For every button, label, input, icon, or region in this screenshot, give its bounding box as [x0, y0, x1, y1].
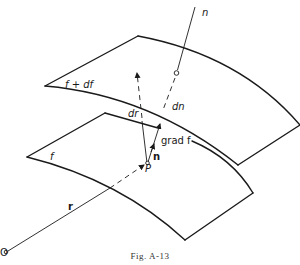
normal-line: [163, 7, 195, 110]
label-unit-normal: n: [153, 151, 160, 162]
figure-a-13: n f + df dn dr grad f n P f r O Fig. A-1…: [0, 0, 300, 265]
normal-point-marker: [174, 71, 179, 76]
position-vector-r: [4, 165, 144, 254]
label-origin-o: O: [0, 247, 8, 258]
label-f-plus-df: f + df: [65, 79, 95, 90]
lower-surface: [27, 113, 253, 240]
label-dr: dr: [128, 108, 139, 119]
figure-caption: Fig. A-13: [130, 251, 169, 261]
dr-vector: [137, 73, 147, 163]
label-r: r: [68, 201, 73, 212]
label-dn: dn: [172, 101, 185, 112]
label-f: f: [50, 151, 55, 162]
label-point-p: P: [145, 163, 152, 174]
label-normal-n: n: [202, 7, 208, 18]
label-grad-f: grad f: [161, 135, 191, 146]
